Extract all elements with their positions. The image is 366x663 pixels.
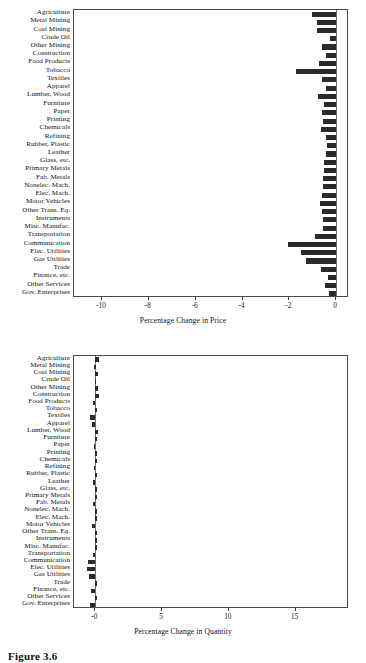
bar [95,459,96,463]
x-tick-mark [101,297,102,300]
category-label: Transportation [28,231,70,238]
x-tick-label: 10 [224,613,231,621]
bar [325,283,336,288]
category-label: Gov. Enterprises [22,600,70,607]
x-tick-label: -8 [145,302,151,310]
category-label: Printing [47,116,70,123]
x-tick-mark [148,297,149,300]
bar [95,437,96,441]
bar [326,135,336,140]
category-label: Fab. Metals [36,174,70,181]
bar [328,275,336,280]
bar [94,444,96,448]
bar [91,589,95,593]
bar [95,509,96,513]
bar [93,553,95,557]
x-tick-mark [195,297,196,300]
category-label: Leather [48,149,70,156]
bar [322,110,337,115]
bar [95,531,96,535]
zero-reference-line [336,10,337,296]
bar [321,127,336,132]
x-tick-mark [161,608,162,611]
bar [95,379,96,383]
bar [288,242,336,247]
bar [326,53,337,58]
bar [323,217,337,222]
bar [90,415,95,419]
category-label: Construction [33,50,70,57]
category-label: Elec. Mach. [35,190,70,197]
bar [320,201,336,206]
bar [326,151,337,156]
category-axis-labels-price: AgricultureMetal MiningCoal MiningCrude … [0,9,70,297]
x-tick-mark [94,608,95,611]
category-label: Primary Metals [25,165,70,172]
x-tick-mark [288,297,289,300]
bar [315,234,336,239]
bar [321,267,336,272]
category-label: Textiles [47,75,70,82]
bar [87,567,95,571]
bar [322,193,337,198]
bar [326,86,337,91]
bar [89,574,95,578]
bar [95,516,96,520]
x-tick-label: 5 [159,613,163,621]
figure-container: AgricultureMetal MiningCoal MiningCrude … [0,0,366,663]
x-axis-title-quantity: Percentage Change in Quantity [0,627,366,636]
bar [93,401,96,405]
bar [296,69,336,74]
bar [318,94,336,99]
category-label: Glass, etc. [40,157,70,164]
bar [322,209,336,214]
x-axis-title-price: Percentage Change in Price [0,316,366,325]
bar [322,77,336,82]
bar [319,61,337,66]
bar [88,560,95,564]
x-tick-label: -4 [239,302,245,310]
bar [95,545,96,549]
bar [324,168,336,173]
category-label: Chemicals [40,124,70,131]
bar [93,480,95,484]
figure-caption: Figure 3.6 [8,650,57,662]
category-label: Coal Mining [33,26,70,33]
category-label: Gov. Enterprises [22,289,70,296]
bar [323,226,336,231]
bar [95,596,96,600]
bar [95,372,97,376]
bar [95,473,96,477]
bar [329,291,336,296]
category-label: Elec. Utilities [30,248,70,255]
bar [94,365,95,369]
category-label: Instruments [36,215,70,222]
bar [93,502,95,506]
category-label: Trade [53,264,70,271]
bar [95,394,99,398]
chart-panel-quantity: AgricultureMetal MiningCoal MiningCrude … [0,340,366,640]
bar [95,386,98,390]
bar [301,250,336,255]
bar [92,524,95,528]
bar [95,495,96,499]
plot-area-price [73,9,348,297]
category-label: Other Trans. Eq. [22,207,70,214]
category-label: Communication [24,240,70,247]
x-tick-mark [335,297,336,300]
category-label: Apparel [47,83,70,90]
x-tick-label: 15 [291,613,298,621]
bar [90,603,95,607]
category-label: Agriculture [37,9,70,16]
category-label: Motor Vehicles [26,198,70,205]
category-label: Refining [45,133,70,140]
category-label: Misc. Manufac. [25,223,70,230]
x-tick-label: -2 [285,302,291,310]
bar [327,143,336,148]
category-label: Paper [54,108,70,115]
plot-area-quantity [73,355,348,608]
bar [95,581,96,585]
category-label: Tobacco [46,67,70,74]
bar [95,430,98,434]
bar [306,258,336,263]
